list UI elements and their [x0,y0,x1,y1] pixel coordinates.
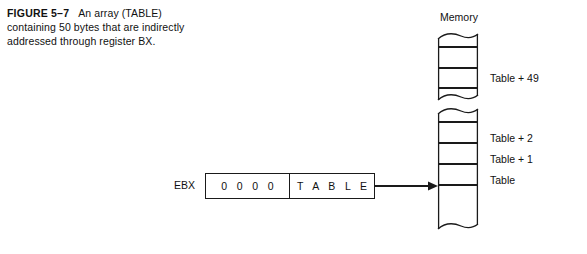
memory-label-table: Table [490,174,515,186]
memory-label-table-plus-2: Table + 2 [490,132,533,144]
torn-edge-icon [438,95,478,100]
torn-edge-icon [438,224,478,229]
memory-label-table-plus-1: Table + 1 [490,153,533,165]
memory-block-lower [438,109,478,229]
torn-edge-icon [438,109,478,114]
figure-vector-layer [0,0,587,254]
memory-block-upper [438,34,478,100]
torn-edge-icon [438,34,478,39]
memory-label-table-plus-49: Table + 49 [490,72,539,84]
figure-5-7: FIGURE 5–7An array (TABLE) containing 50… [0,0,587,254]
arrow-right-icon [375,182,438,191]
